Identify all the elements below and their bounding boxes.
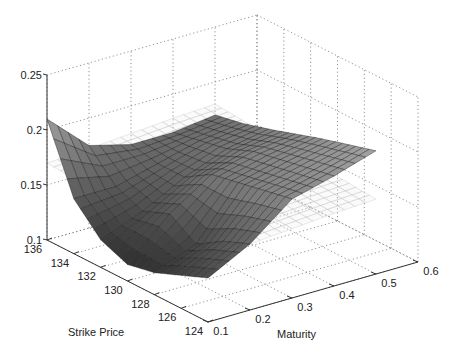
- x-axis-title: Strike Price: [68, 326, 124, 338]
- x-tick-label: 134: [51, 257, 69, 269]
- z-tick-label: 0.2: [27, 124, 42, 136]
- y-tick: [287, 296, 292, 298]
- z-tick: [43, 74, 47, 75]
- x-tick-label: 132: [77, 270, 95, 282]
- y-tick: [413, 260, 418, 262]
- z-tick-label: 0.15: [21, 179, 42, 191]
- y-axis-title: Maturity: [277, 328, 317, 340]
- y-tick-label: 0.3: [297, 301, 312, 313]
- x-tick-label: 126: [158, 311, 176, 323]
- y-tick-label: 0.6: [423, 265, 438, 277]
- volatility-surface: [47, 104, 376, 278]
- x-tick-label: 130: [104, 284, 122, 296]
- right-wall-grid-line: [257, 15, 418, 97]
- y-tick-label: 0.1: [213, 325, 228, 337]
- y-tick: [245, 308, 250, 310]
- z-tick: [43, 129, 47, 130]
- x-tick-label: 124: [185, 325, 203, 337]
- back-wall-grid-line: [47, 15, 257, 75]
- y-tick: [371, 272, 376, 274]
- y-tick-label: 0.5: [381, 277, 396, 289]
- y-tick: [329, 284, 334, 286]
- z-tick: [43, 239, 47, 240]
- z-tick: [43, 184, 47, 185]
- x-tick-label: 128: [131, 298, 149, 310]
- z-tick-label: 0.25: [21, 69, 42, 81]
- x-tick-label: 136: [24, 243, 42, 255]
- surface-chart: 0.10.150.20.251361341321301281261240.10.…: [0, 0, 457, 358]
- y-tick-label: 0.2: [255, 313, 270, 325]
- y-tick-label: 0.4: [339, 289, 354, 301]
